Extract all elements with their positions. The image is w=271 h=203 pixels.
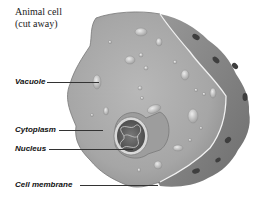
label-nucleus: Nucleus xyxy=(15,144,46,154)
label-cytoplasm: Cytoplasm xyxy=(15,125,56,135)
leader-line-vacuole xyxy=(47,82,99,83)
animal-cell-illustration xyxy=(0,0,271,203)
label-cell-membrane: Cell membrane xyxy=(15,180,72,190)
leader-line-cell-membrane xyxy=(80,185,158,186)
leader-line-cytoplasm xyxy=(59,130,103,131)
label-vacuole: Vacuole xyxy=(15,77,45,87)
leader-line-nucleus xyxy=(49,149,133,150)
